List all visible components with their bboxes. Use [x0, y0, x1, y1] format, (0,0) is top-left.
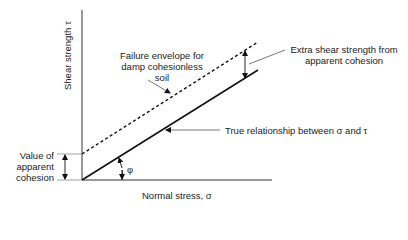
failure-envelope-line2: damp cohesionless [112, 61, 212, 72]
extra-strength-label: Extra shear strength from apparent cohes… [284, 44, 404, 66]
cohesion-label: Value of apparent cohesion [6, 150, 54, 183]
phi-arrow-up [119, 158, 122, 168]
true-relationship-label: True relationship between σ and τ [225, 125, 367, 136]
cohesion-line3: cohesion [6, 172, 54, 183]
failure-envelope-label: Failure envelope for damp cohesionless s… [112, 50, 212, 83]
extra-strength-line1: Extra shear strength from [284, 44, 404, 55]
failure-envelope-line3: soil [112, 72, 212, 83]
cohesion-line1: Value of [6, 150, 54, 161]
extra-strength-leader [249, 50, 285, 64]
extra-strength-line2: apparent cohesion [284, 55, 404, 66]
failure-envelope-line1: Failure envelope for [112, 50, 212, 61]
y-axis-label: Shear strength τ [62, 21, 73, 90]
phi-symbol: φ [127, 164, 133, 175]
x-axis-label: Normal stress, σ [142, 190, 212, 201]
cohesion-line2: apparent [6, 161, 54, 172]
